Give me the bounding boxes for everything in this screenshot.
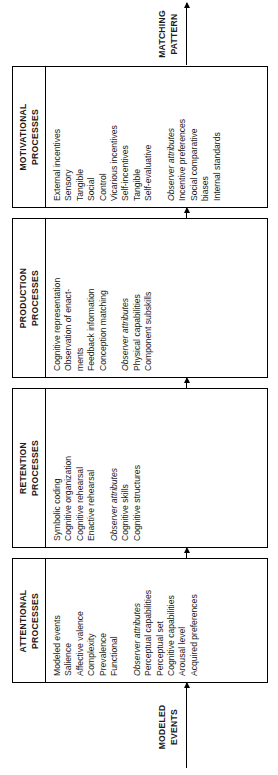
group-item: Self-incentives [120, 67, 131, 201]
modeled-events-label: MODELED EVENTS [157, 705, 180, 750]
stage-body-production: Cognitive representationObservation of e… [46, 219, 267, 377]
group-header: Observer attributes [120, 219, 131, 371]
group-item: Arousal level [177, 559, 188, 676]
stage-item-list: Modeled eventsSalienceAffective valenceC… [52, 559, 200, 676]
group-item: Control [98, 67, 109, 201]
group-header: Modeled events [52, 559, 63, 676]
group-item: Component subskills [143, 219, 154, 371]
modeled-events-line1: MODELED [157, 705, 167, 750]
group-spacer [109, 219, 120, 371]
group-spacer [120, 559, 131, 676]
group-item: Observation of enact- [63, 219, 74, 371]
group-item: Tangible [75, 67, 86, 201]
group-header: Cognitive representation [52, 219, 63, 371]
stage-title-line1: MOTIVATIONAL [18, 103, 28, 170]
group-header: Symbolic coding [52, 389, 63, 541]
arrow-production-to-motivational [186, 208, 187, 218]
group-item: Incentive preferences [177, 67, 188, 201]
group-item: Cognitive structures [132, 389, 143, 541]
group-header: External incentives [52, 67, 63, 201]
stage-motivational-processes: MOTIVATIONAL PROCESSES External incentiv… [12, 66, 268, 208]
arrow-retention-to-production [186, 378, 187, 388]
matching-pattern-line1: MATCHING [157, 10, 167, 58]
stage-title-attentional: ATTENTIONAL PROCESSES [13, 559, 46, 682]
stage-title-line1: PRODUCTION [18, 268, 28, 328]
group-spacer [98, 389, 109, 541]
group-spacer [155, 67, 166, 201]
group-item: Physical capabilities [132, 219, 143, 371]
group-item: Sensory [63, 67, 74, 201]
group-item: Social [86, 67, 97, 201]
stage-attentional-processes: ATTENTIONAL PROCESSES Modeled eventsSali… [12, 558, 268, 683]
matching-pattern-line2: PATTERN [168, 13, 178, 54]
group-header: Observer attributes [132, 559, 143, 676]
group-item: Cognitive rehearsal [75, 389, 86, 541]
group-item: Perceptual capabilities [143, 559, 154, 676]
group-item: Cognitive organization [63, 389, 74, 541]
group-item: Vicarious incentives [109, 67, 120, 201]
stage-production-processes: PRODUCTION PROCESSES Cognitive represent… [12, 218, 268, 378]
stage-title-line2: PROCESSES [29, 440, 39, 496]
stage-item-list: Cognitive representationObservation of e… [52, 219, 155, 371]
group-item: Tangible [132, 67, 143, 201]
group-item: ments [75, 219, 86, 371]
stage-body-retention: Symbolic codingCognitive organizationCog… [46, 389, 267, 547]
stage-title-line2: PROCESSES [29, 270, 39, 326]
group-item: Conception matching [98, 219, 109, 371]
arrow-to-matching-pattern [186, 3, 187, 65]
group-header: Observer attributes [109, 389, 120, 541]
group-item: Cognitive capabilities [166, 559, 177, 676]
group-item: Affective valence [75, 559, 86, 676]
stage-title-motivational: MOTIVATIONAL PROCESSES [13, 67, 46, 207]
stage-item-list: Symbolic codingCognitive organizationCog… [52, 389, 143, 541]
group-item: Salience [63, 559, 74, 676]
group-item: Prevalence [98, 559, 109, 676]
group-item: Feedback information [86, 219, 97, 371]
group-item: Functional [109, 559, 120, 676]
group-item: Perceptual set [155, 559, 166, 676]
arrow-from-modeled-events [186, 683, 187, 768]
modeled-events-line2: EVENTS [168, 709, 178, 745]
stage-body-motivational: External incentivesSensoryTangibleSocial… [46, 67, 267, 207]
social-learning-diagram: MATCHING PATTERN MOTIVATIONAL PROCESSES … [0, 0, 278, 775]
group-item: Social comparative [189, 67, 200, 201]
stage-retention-processes: RETENTION PROCESSES Symbolic codingCogni… [12, 388, 268, 548]
stage-body-attentional: Modeled eventsSalienceAffective valenceC… [46, 559, 267, 682]
group-item: Enactive rehearsal [86, 389, 97, 541]
group-header: Observer attributes [166, 67, 177, 201]
group-item: Cognitive skills [120, 389, 131, 541]
stage-title-line1: ATTENTIONAL [18, 589, 28, 652]
group-item: Complexity [86, 559, 97, 676]
stage-title-retention: RETENTION PROCESSES [13, 389, 46, 547]
stage-item-list: External incentivesSensoryTangibleSocial… [52, 67, 223, 201]
matching-pattern-label: MATCHING PATTERN [157, 10, 180, 58]
group-item: Self-evaluative [143, 67, 154, 201]
group-item: Internal standards [212, 67, 223, 201]
group-item: biases [200, 67, 211, 201]
group-item: Acquired preferences [189, 559, 200, 676]
arrow-attentional-to-retention [186, 548, 187, 558]
stage-title-line2: PROCESSES [29, 593, 39, 649]
stage-title-line2: PROCESSES [29, 109, 39, 165]
stage-title-production: PRODUCTION PROCESSES [13, 219, 46, 377]
stage-title-line1: RETENTION [18, 442, 28, 494]
